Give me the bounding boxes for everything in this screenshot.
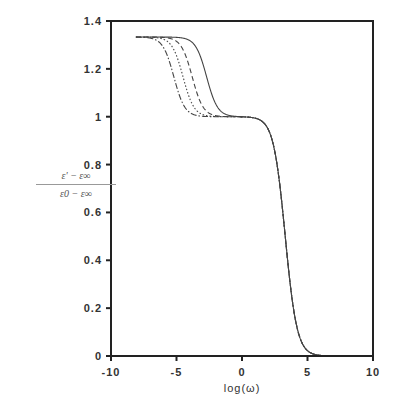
y-axis-label: ε' − ε∞ ε0 − ε∞ <box>36 170 116 199</box>
x-axis-label: log(ω) <box>224 382 261 394</box>
y-tick-label: 0 <box>95 350 102 362</box>
series-line-dashed <box>136 37 373 356</box>
x-tick-label: 5 <box>304 366 311 378</box>
series-line-solid <box>136 37 373 356</box>
x-axis-ticks: -10-50510 <box>102 356 381 378</box>
y-tick-label: 0.8 <box>84 159 102 171</box>
x-tick-label: 10 <box>366 366 380 378</box>
y-tick-label: 1.4 <box>84 15 102 27</box>
y-tick-label: 0.4 <box>84 254 102 266</box>
series-line-dotted <box>136 37 373 356</box>
y-tick-label: 1.2 <box>84 63 102 75</box>
y-axis-label-denominator: ε0 − ε∞ <box>36 185 116 199</box>
chart-canvas: 00.20.40.60.811.21.4 -10-50510 log(ω) <box>0 0 393 410</box>
y-tick-label: 0.6 <box>84 206 102 218</box>
y-tick-label: 1 <box>95 111 102 123</box>
y-tick-label: 0.2 <box>84 302 102 314</box>
y-axis-label-numerator: ε' − ε∞ <box>36 170 116 185</box>
x-tick-label: -10 <box>102 366 121 378</box>
x-tick-label: -5 <box>171 366 183 378</box>
series-line-dash-dot <box>136 37 373 356</box>
x-tick-label: 0 <box>238 366 245 378</box>
plot-lines <box>136 37 373 356</box>
plot-frame <box>111 21 373 356</box>
